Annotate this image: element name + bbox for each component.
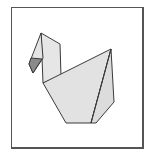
swan-beak xyxy=(29,58,42,73)
origami-swan-diagram xyxy=(0,0,152,161)
